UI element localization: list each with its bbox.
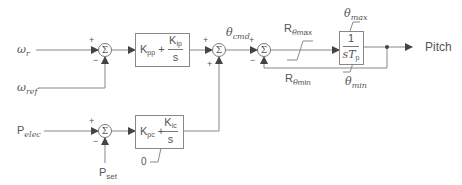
zero-limit-label: 0: [141, 157, 147, 167]
theta-min-label: θmin: [345, 76, 367, 90]
kip-over-s: Kips: [168, 35, 183, 63]
summer-3: Σ: [257, 43, 271, 57]
junction-dot: [385, 45, 389, 49]
wire-kpc-sum2: [182, 57, 219, 131]
summer-2: Σ: [212, 43, 226, 57]
r-theta-min-label: Rθmin: [285, 73, 311, 87]
kpp-term: Kpp +: [140, 44, 165, 56]
theta-max-label: θmax: [344, 8, 368, 22]
kic-over-s: Kics: [163, 117, 178, 145]
theta-max-limit-mark: [350, 22, 360, 31]
p-elec-label: Pelec: [17, 125, 41, 139]
one-over-stp: 1sTp: [340, 33, 362, 61]
zero-limit-mark: [150, 148, 161, 162]
summer-2-plus-b: +: [207, 60, 212, 69]
p-set-label: Pset: [99, 167, 117, 181]
summer-3-minus: −: [250, 56, 255, 65]
pitch-output-label: Pitch: [425, 41, 452, 53]
kpc-term: Kpc +: [140, 126, 164, 138]
summer-1-plus: +: [89, 36, 94, 45]
summer-4-minus: −: [93, 137, 98, 146]
summer-1-minus: −: [93, 56, 98, 65]
summer-1: Σ: [98, 43, 112, 57]
omega-ref-label: ωref: [17, 82, 38, 96]
summer-2-plus-a: +: [203, 36, 208, 45]
r-theta-max-label: Rθmax: [284, 23, 312, 37]
theta-cmd-label: θcmd: [226, 27, 250, 41]
summer-4-plus: +: [89, 117, 94, 126]
omega-r-label: ωr: [17, 44, 30, 58]
summer-4: Σ: [98, 124, 112, 138]
